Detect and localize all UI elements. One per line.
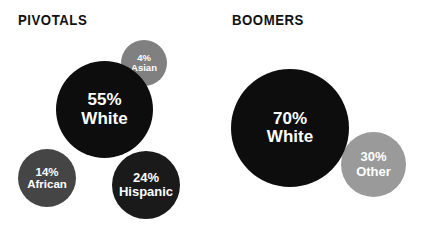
bubble-percent: 14% [35,166,58,178]
bubble-pivotals-african: 14% African [18,149,76,207]
bubble-pivotals-white: 55% White [56,61,153,158]
bubble-pivotals-hispanic: 24% Hispanic [112,151,180,219]
group-title-pivotals: PIVOTALS [18,12,87,27]
bubble-chart-canvas: PIVOTALS 4% Asian 14% African 55% White … [0,0,435,236]
group-title-boomers: BOOMERS [232,12,304,27]
bubble-percent: 24% [133,171,159,185]
bubble-boomers-other: 30% Other [341,132,406,197]
bubble-group-label: Hispanic [119,185,173,199]
bubble-group-label: Other [356,165,391,179]
bubble-group-label: African [27,178,67,190]
bubble-boomers-white: 70% White [231,69,349,187]
bubble-percent: 55% [87,91,121,109]
bubble-group-label: White [81,110,127,128]
bubble-percent: 70% [273,110,307,128]
bubble-percent: 30% [360,150,386,164]
bubble-group-label: White [267,128,313,146]
